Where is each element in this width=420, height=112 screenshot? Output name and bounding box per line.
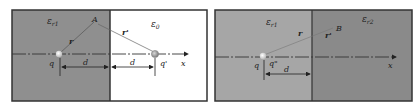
- label-q: q: [254, 61, 259, 70]
- image-charge-q-prime: [151, 50, 158, 57]
- label-q-double-prime: q": [269, 59, 278, 68]
- label-x-axis: x: [388, 61, 393, 70]
- diagram-canvas: εr1 ε0 A r r' q q' d d x εr1 εr2 B r r' …: [0, 0, 420, 112]
- label-d-1: d: [83, 58, 88, 67]
- label-d: d: [284, 65, 289, 74]
- right-panel: εr1 εr2 B r r' q q" d x: [215, 10, 412, 101]
- label-point-b: B: [335, 24, 342, 33]
- charge-q: [56, 51, 62, 57]
- label-x-axis: x: [181, 59, 186, 68]
- left-panel: εr1 ε0 A r r' q q' d d x: [12, 10, 207, 101]
- label-d-2: d: [130, 58, 135, 67]
- label-point-a: A: [91, 15, 98, 24]
- charge-q: [260, 53, 266, 59]
- label-r-prime: r': [325, 30, 332, 40]
- label-r-prime: r': [122, 27, 129, 37]
- label-q: q: [49, 59, 54, 68]
- label-q-prime: q': [160, 59, 167, 68]
